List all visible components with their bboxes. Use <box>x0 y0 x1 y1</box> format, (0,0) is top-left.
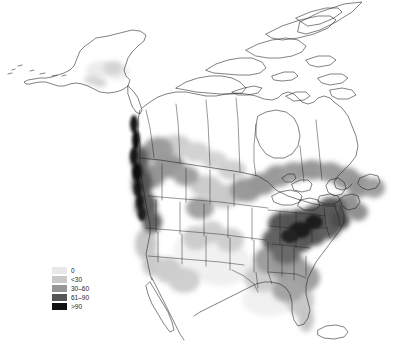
legend-row: 61–90 <box>52 293 112 302</box>
density-legend: 0 <30 30–60 61–90 >90 <box>52 266 112 311</box>
legend-row: 0 <box>52 266 112 275</box>
legend-swatch-0 <box>52 267 67 274</box>
legend-row: 30–60 <box>52 284 112 293</box>
legend-label-gt90: >90 <box>71 303 82 310</box>
legend-label-0: 0 <box>71 267 75 274</box>
legend-row: >90 <box>52 302 112 311</box>
legend-swatch-gt90 <box>52 303 67 310</box>
legend-label-lt30: <30 <box>71 276 82 283</box>
legend-swatch-lt30 <box>52 276 67 283</box>
legend-label-61-90: 61–90 <box>71 294 89 301</box>
legend-label-30-60: 30–60 <box>71 285 89 292</box>
map-figure: 0 <30 30–60 61–90 >90 <box>0 0 413 352</box>
legend-row: <30 <box>52 275 112 284</box>
legend-swatch-61-90 <box>52 294 67 301</box>
legend-swatch-30-60 <box>52 285 67 292</box>
